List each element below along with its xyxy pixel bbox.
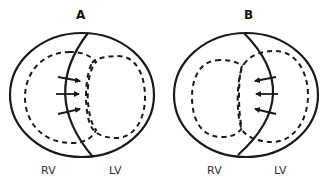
panel-a [10, 33, 154, 157]
panel-b-rv-label: RV [207, 164, 222, 177]
lv-dashed-outline [86, 56, 145, 138]
ventricular-septum-diagram [0, 0, 325, 190]
panel-a-lv-label: LV [109, 164, 122, 177]
arrow-icon [255, 109, 276, 114]
rv-dashed-outline [192, 60, 242, 137]
rv-dashed-outline [25, 52, 96, 143]
outer-heart-outline [174, 33, 318, 157]
panel-b-lv-label: LV [274, 164, 287, 177]
outer-heart-outline [10, 33, 154, 157]
panel-a-rv-label: RV [41, 164, 56, 177]
panel-b-title: B [244, 8, 253, 22]
arrow-icon [58, 77, 80, 81]
panel-a-title: A [76, 8, 85, 22]
panel-b [174, 33, 318, 157]
